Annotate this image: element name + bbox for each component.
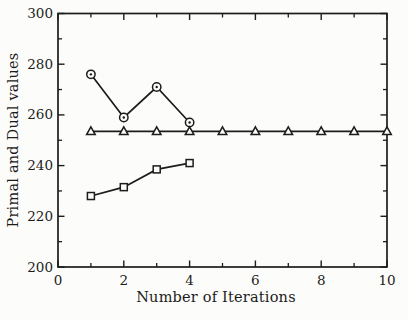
- circle-dot-center: [90, 73, 92, 75]
- x-axis-label: Number of Iterations: [136, 289, 296, 305]
- y-tick-label: 280: [27, 56, 53, 72]
- chart: 0246810200220240260280300 Primal and Dua…: [0, 0, 408, 320]
- circle-dot-center: [123, 116, 125, 118]
- circle-dot-center: [188, 121, 190, 123]
- circle-dot-center: [156, 86, 158, 88]
- x-tick-label: 10: [378, 272, 395, 288]
- series-dual-constant-triangles: [87, 127, 392, 135]
- y-tick-label: 300: [27, 5, 53, 21]
- x-tick-label: 8: [317, 272, 326, 288]
- series-line: [91, 163, 190, 196]
- square-marker: [120, 184, 127, 191]
- x-tick-label: 0: [54, 272, 63, 288]
- x-tick-label: 6: [251, 272, 260, 288]
- square-marker: [87, 193, 94, 200]
- x-tick-label: 4: [185, 272, 194, 288]
- plot-area: 0246810200220240260280300: [0, 0, 408, 320]
- square-marker: [186, 160, 193, 167]
- y-axis-label: Primal and Dual values: [5, 53, 21, 228]
- series-primal-lower-squares: [87, 160, 193, 200]
- square-marker: [153, 166, 160, 173]
- y-tick-label: 240: [27, 157, 53, 173]
- series-line: [91, 74, 190, 122]
- y-tick-label: 220: [27, 208, 53, 224]
- plot-frame: [58, 14, 387, 268]
- y-tick-label: 200: [27, 259, 53, 275]
- y-tick-label: 260: [27, 106, 53, 122]
- series-primal-upper-circles: [87, 70, 194, 127]
- x-tick-label: 2: [120, 272, 129, 288]
